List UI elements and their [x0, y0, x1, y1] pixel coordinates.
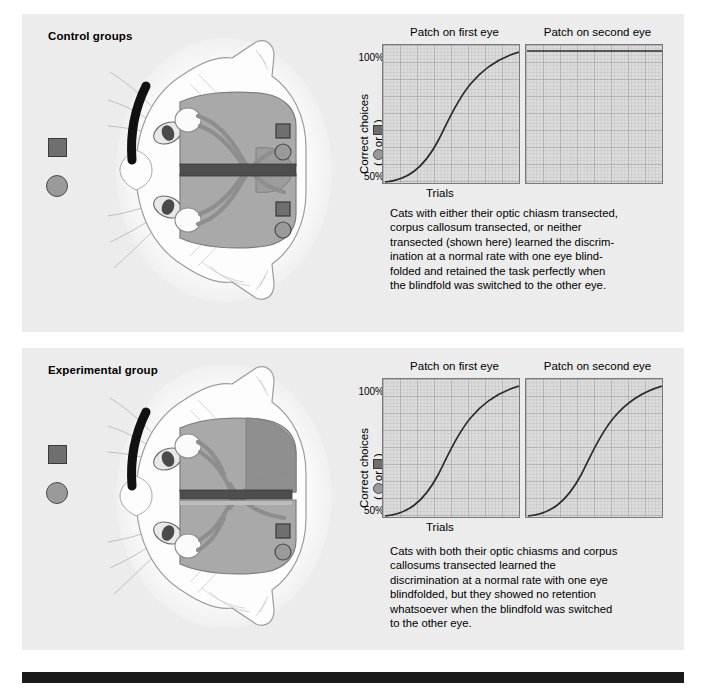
panel-experimental-group: Experimental group — [22, 348, 684, 650]
cat-head-diagram-experimental — [106, 356, 336, 636]
plot-area-experimental-first-eye — [382, 378, 520, 518]
ylabel-main-text-experimental: Correct choices — [358, 428, 370, 508]
ylabel-correct-choices-experimental: Correct choices — [358, 428, 370, 508]
ytick-top-control: 100% — [352, 52, 384, 63]
bottom-rule-bar — [22, 672, 684, 683]
caption-control-line-4: ination at a normal rate with one eye bl… — [390, 249, 618, 263]
plot-area-control-first-eye — [382, 44, 520, 184]
legend-circle-key-control — [46, 175, 68, 197]
caption-control-line-3: transected (shown here) learned the disc… — [390, 235, 618, 249]
plot-area-control-second-eye — [525, 44, 663, 184]
split-brain-cat-figure: Control groups — [0, 0, 706, 694]
cat-head-diagram-control — [106, 30, 336, 310]
legend-square-key-control — [48, 138, 67, 157]
ytick-top-experimental: 100% — [352, 386, 384, 397]
legend-square-key-experimental — [48, 445, 67, 464]
ylabel-main-text-control: Correct choices — [358, 94, 370, 174]
caption-control-line-1: Cats with either their optic chiasm tran… — [390, 206, 618, 220]
caption-control-line-2: corpus callosum transected, or neither — [390, 220, 618, 234]
xlabel-trials-control: Trials — [426, 187, 454, 199]
chart-title-experimental-second-eye: Patch on second eye — [525, 360, 670, 372]
caption-experimental-line-1: Cats with both their optic chiasms and c… — [390, 544, 617, 558]
caption-control-line-5: folded and retained the task perfectly w… — [390, 264, 618, 278]
caption-experimental-line-2: callosums transected learned the — [390, 558, 617, 572]
chart-title-experimental-first-eye: Patch on first eye — [382, 360, 527, 372]
caption-experimental-line-4: blindfolded, but they showed no retentio… — [390, 587, 617, 601]
panel-control-groups: Control groups — [22, 14, 684, 332]
caption-control-line-6: the blindfold was switched to the other … — [390, 278, 618, 292]
caption-experimental-line-6: to the other eye. — [390, 616, 617, 630]
caption-experimental-line-5: whatsoever when the blindfold was switch… — [390, 602, 617, 616]
ylabel-correct-choices-control: Correct choices — [358, 94, 370, 174]
caption-control: Cats with either their optic chiasm tran… — [390, 206, 618, 292]
caption-experimental-line-3: discrimination at a normal rate with one… — [390, 573, 617, 587]
chart-title-control-second-eye: Patch on second eye — [525, 26, 670, 38]
plot-area-experimental-second-eye — [525, 378, 663, 518]
legend-circle-key-experimental — [46, 482, 68, 504]
xlabel-trials-experimental: Trials — [426, 521, 454, 533]
chart-title-control-first-eye: Patch on first eye — [382, 26, 527, 38]
caption-experimental: Cats with both their optic chiasms and c… — [390, 544, 617, 630]
